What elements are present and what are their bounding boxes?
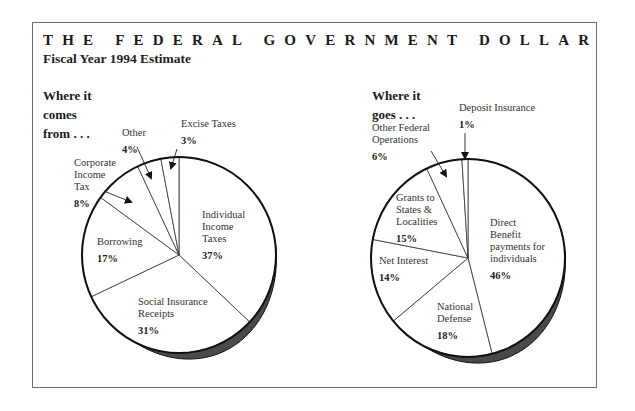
slice-percent-label: 1% [459,119,475,130]
slice-percent-label: 37% [202,250,223,261]
slice-label-text: States & [396,204,432,215]
pie-charts: IndividualIncomeTaxes37%Social Insurance… [0,0,635,411]
slice-label-text: Tax [74,181,90,192]
slice-percent-label: 17% [97,253,118,264]
slice-label-text: individuals [490,253,537,264]
slice-label-deposit-insurance: Deposit Insurance1% [459,102,535,158]
slice-label-text: Corporate [74,157,116,168]
slice-percent-label: 6% [372,151,388,162]
slice-label-text: Deposit Insurance [459,102,535,113]
slice-label-text: Taxes [202,233,226,244]
slice-label-text: Localities [396,216,437,227]
slice-percent-label: 8% [74,198,90,209]
slice-label-text: Income [74,169,106,180]
slice-label-text: Income [202,221,234,232]
slice-label-text: Other Federal [372,122,430,133]
slice-percent-label: 15% [396,233,417,244]
slice-percent-label: 3% [181,135,197,146]
slice-label-text: Individual [202,209,245,220]
slice-label-text: payments for [490,241,546,252]
slice-percent-label: 31% [138,325,159,336]
slice-label-text: National [437,301,473,312]
slice-label-text: Benefit [490,229,521,240]
slice-label-text: Direct [490,217,516,228]
slice-percent-label: 46% [490,270,511,281]
spending-pie: DirectBenefitpayments forindividuals46%N… [371,102,565,363]
slice-percent-label: 4% [122,144,138,155]
slice-label-text: Defense [437,313,472,324]
slice-label-text: Other [122,127,146,138]
slice-label-text: Receipts [138,308,174,319]
slice-label-text: Grants to [396,192,435,203]
income-pie: IndividualIncomeTaxes37%Social Insurance… [74,118,276,359]
slice-label-text: Excise Taxes [181,118,236,129]
slice-percent-label: 18% [437,330,458,341]
slice-percent-label: 14% [379,272,400,283]
slice-label-text: Social Insurance [138,296,208,307]
slice-label-text: Operations [372,134,418,145]
slice-label-text: Borrowing [97,236,143,247]
slice-label-text: Net Interest [379,255,428,266]
